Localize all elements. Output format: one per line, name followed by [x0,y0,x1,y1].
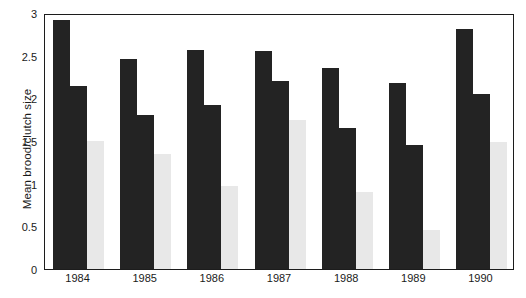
x-axis-tick-labels: 1984198519861987198819891990 [44,272,514,292]
y-axis-tick-labels: 00.511.522.53 [0,0,41,298]
bar-group [389,15,440,269]
bar-chart: Mean brood/clutch size 00.511.522.53 198… [0,0,526,298]
y-axis-tick-label: 2.5 [22,51,37,63]
bar[interactable] [389,83,406,269]
x-axis-tick-label: 1986 [200,272,224,284]
bar[interactable] [339,128,356,269]
bar-group [187,15,238,269]
bar[interactable] [456,29,473,269]
bar[interactable] [255,51,272,269]
x-axis-tick-label: 1989 [401,272,425,284]
y-axis-tick-label: 2 [31,93,37,105]
y-axis-tick-label: 0 [31,264,37,276]
bar-group [53,15,104,269]
bar[interactable] [272,81,289,269]
bar[interactable] [87,141,104,269]
bar[interactable] [204,105,221,269]
bar-group [456,15,507,269]
bar[interactable] [356,192,373,269]
plot-area [44,14,514,270]
x-axis-tick-label: 1987 [267,272,291,284]
bar-group [322,15,373,269]
bar[interactable] [473,94,490,269]
y-axis-tick-label: 1.5 [22,136,37,148]
bar-group [120,15,171,269]
bar[interactable] [289,120,306,269]
x-axis-tick-label: 1984 [65,272,89,284]
bar[interactable] [221,186,238,269]
bar[interactable] [70,86,87,269]
y-axis-tick-label: 1 [31,179,37,191]
x-axis-tick-label: 1985 [132,272,156,284]
bar[interactable] [53,20,70,269]
x-axis-tick-label: 1988 [334,272,358,284]
bar[interactable] [187,50,204,269]
y-axis-tick-label: 0.5 [22,221,37,233]
bar[interactable] [490,142,507,269]
x-axis-tick-label: 1990 [468,272,492,284]
bar-group [255,15,306,269]
bar[interactable] [137,115,154,269]
bar[interactable] [423,230,440,269]
bar[interactable] [120,59,137,269]
bar[interactable] [406,145,423,269]
y-axis-tick-label: 3 [31,8,37,20]
bar[interactable] [154,154,171,269]
plot-inner [45,15,513,269]
bar[interactable] [322,68,339,269]
